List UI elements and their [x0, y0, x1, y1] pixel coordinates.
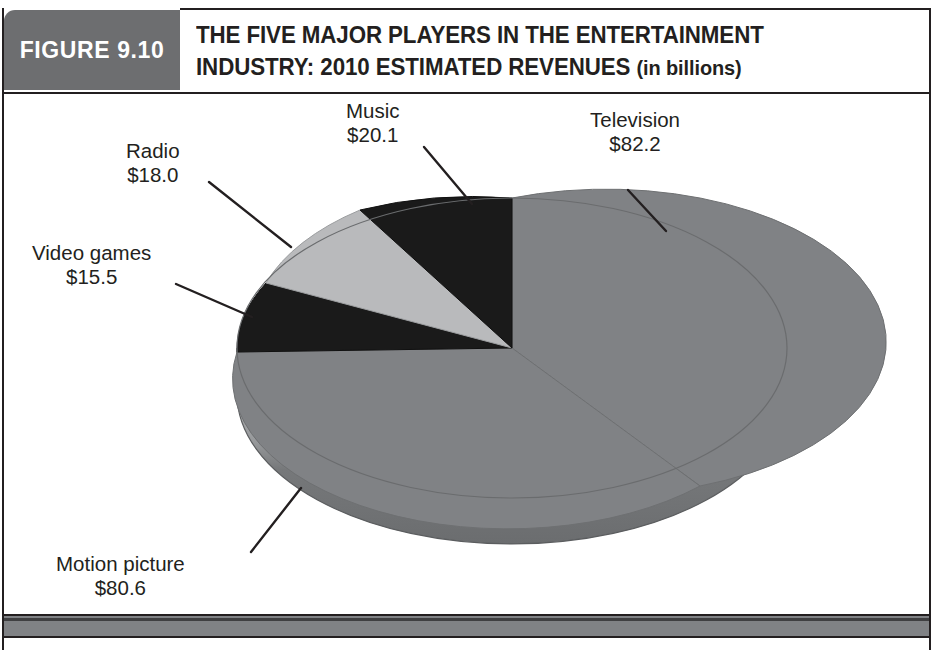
pie-top-face: [233, 189, 887, 529]
figure-title-line-2: INDUSTRY: 2010 ESTIMATED REVENUES (in bi…: [196, 51, 880, 84]
figure-container: FIGURE 9.10 THE FIVE MAJOR PLAYERS IN TH…: [0, 0, 935, 654]
pie-label-video-games-value: $15.5: [32, 265, 151, 289]
figure-title-line-2-main: INDUSTRY: 2010 ESTIMATED REVENUES: [196, 54, 636, 80]
pie-label-video-games: Video games $15.5: [32, 241, 151, 289]
figure-number-badge: FIGURE 9.10: [4, 10, 180, 90]
pie-label-radio: Radio $18.0: [126, 139, 180, 187]
pie-label-music: Music $20.1: [346, 99, 400, 147]
pie-label-radio-value: $18.0: [126, 163, 180, 187]
leader-line-radio: [209, 182, 291, 247]
pie-label-television-value: $82.2: [590, 132, 680, 156]
leader-line-video-games: [176, 284, 252, 317]
pie-label-music-name: Music: [346, 99, 400, 123]
pie-label-television-name: Television: [590, 108, 680, 132]
pie-chart-area: Television $82.2 Motion picture $80.6 Mu…: [4, 94, 929, 614]
footer-bar-shadow: [4, 618, 929, 621]
pie-label-music-value: $20.1: [346, 123, 400, 147]
frame-right-border: [929, 8, 931, 650]
pie-label-motion-picture-value: $80.6: [56, 576, 185, 600]
footer-bottom-divider: [4, 636, 929, 638]
figure-title-units-note: (in billions): [636, 56, 741, 79]
pie-label-motion-picture-name: Motion picture: [56, 552, 185, 576]
leader-line-motion-picture: [251, 488, 301, 552]
figure-title-line-1: THE FIVE MAJOR PLAYERS IN THE ENTERTAINM…: [196, 19, 880, 51]
leader-line-music: [424, 147, 472, 204]
pie-label-radio-name: Radio: [126, 139, 180, 163]
pie-label-motion-picture: Motion picture $80.6: [56, 552, 185, 600]
pie-label-television: Television $82.2: [590, 108, 680, 156]
figure-title: THE FIVE MAJOR PLAYERS IN THE ENTERTAINM…: [196, 14, 916, 88]
pie-label-video-games-name: Video games: [32, 241, 151, 265]
